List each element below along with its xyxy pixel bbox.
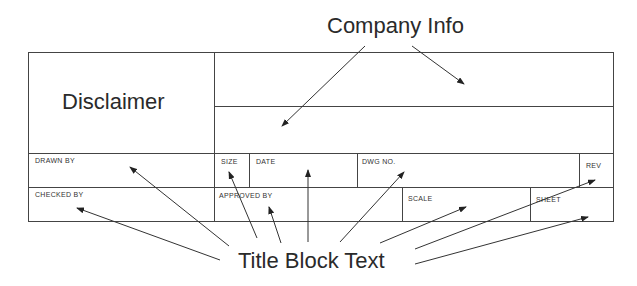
arrow-dwg-no <box>340 172 404 242</box>
callout-arrows <box>0 0 637 286</box>
arrow-rev <box>415 180 595 249</box>
arrow-checked-by <box>77 208 220 260</box>
arrow-approved-by <box>269 207 281 243</box>
arrow-size <box>229 172 257 238</box>
arrow-drawn-by <box>130 167 229 246</box>
arrow-company-info-lower <box>282 46 365 126</box>
arrow-company-info-upper <box>412 46 464 84</box>
arrow-scale <box>380 207 466 243</box>
arrow-sheet <box>415 217 588 264</box>
